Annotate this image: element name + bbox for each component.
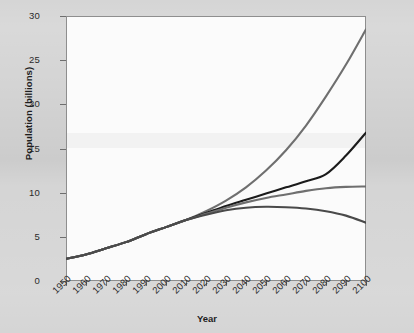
y-axis-title: Population (billions) <box>23 34 34 194</box>
x-axis-tick-label: 1950 <box>50 273 73 296</box>
y-axis-tick <box>60 237 66 238</box>
population-projection-chart: 051015202530 195019601970198019902000201… <box>0 0 414 333</box>
chart-line-high-variant <box>66 29 366 259</box>
y-axis-tick <box>60 16 66 17</box>
chart-line-constant-fertility-variant <box>66 186 366 258</box>
y-axis-tick <box>60 149 66 150</box>
y-axis-tick-label: 0 <box>18 276 40 286</box>
y-axis-tick-label: 5 <box>18 232 40 242</box>
y-axis-tick <box>60 193 66 194</box>
x-axis-title: Year <box>0 313 414 324</box>
chart-line-low-variant <box>66 207 366 259</box>
chart-curves <box>66 16 366 281</box>
y-axis-tick <box>60 104 66 105</box>
y-axis-tick-label: 30 <box>18 11 40 21</box>
chart-line-medium-variant <box>66 133 366 259</box>
y-axis-tick <box>60 60 66 61</box>
